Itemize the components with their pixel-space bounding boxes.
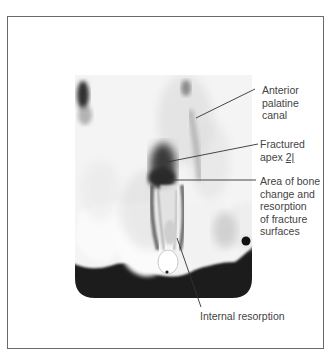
label-line: palatine [262, 97, 299, 110]
label-bone-change: Area of bone change and resorption of fr… [260, 175, 320, 238]
label-anterior-palatine-canal: Anterior palatine canal [262, 84, 299, 122]
label-line: of fracture [260, 213, 320, 226]
label-fractured-apex: Fractured apex 2| [260, 138, 305, 163]
label-internal-resorption: Internal resorption [200, 310, 285, 323]
label-line: change and [260, 188, 320, 201]
label-line: Anterior [262, 84, 299, 97]
label-line: canal [262, 109, 299, 122]
label-line: Internal resorption [200, 310, 285, 323]
label-line: Fractured [260, 138, 305, 151]
label-line: Area of bone [260, 175, 320, 188]
label-line: surfaces [260, 225, 320, 238]
label-line: apex 2| [260, 151, 305, 164]
label-line: resorption [260, 200, 320, 213]
tooth-notation: 2| [286, 151, 295, 163]
label-text: apex [260, 151, 286, 163]
